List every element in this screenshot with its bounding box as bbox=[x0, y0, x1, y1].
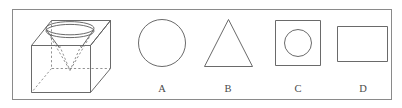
option-b-shape bbox=[205, 20, 253, 67]
cube-front-face bbox=[32, 46, 91, 93]
cone-rim-outer-ellipse bbox=[46, 22, 94, 35]
cone-rim-inner-ellipse bbox=[46, 24, 94, 37]
option-label-c: C bbox=[294, 83, 301, 94]
inner-circle-shape bbox=[285, 30, 312, 57]
option-c-shape bbox=[276, 21, 321, 66]
square-shape bbox=[276, 21, 321, 66]
cube-with-inverted-cone bbox=[32, 21, 111, 93]
cube-hidden-bottom-left-edge bbox=[32, 69, 52, 93]
cube-hidden-back-edges bbox=[52, 21, 111, 69]
triangle-shape bbox=[205, 20, 253, 67]
option-label-b: B bbox=[224, 83, 231, 94]
option-a-shape bbox=[139, 20, 186, 67]
option-d-shape bbox=[338, 27, 388, 62]
option-label-a: A bbox=[158, 83, 166, 94]
figure-canvas: A B C D bbox=[0, 0, 402, 108]
cube-right-face bbox=[91, 21, 111, 93]
circle-shape bbox=[139, 20, 186, 67]
option-label-d: D bbox=[359, 83, 367, 94]
rectangle-shape bbox=[338, 27, 388, 62]
figure-border bbox=[13, 10, 392, 100]
figure-root: A B C D bbox=[0, 0, 402, 108]
